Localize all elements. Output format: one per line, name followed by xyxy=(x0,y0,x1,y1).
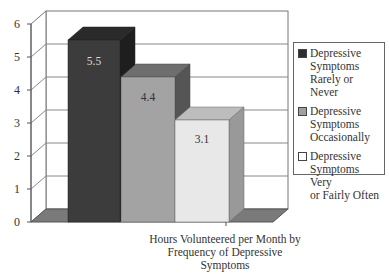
y-tick-label: 1 xyxy=(14,182,20,196)
legend-item-occasionally: Depressive Symptoms Occasionally xyxy=(298,105,381,144)
legend-swatch-light xyxy=(298,152,307,161)
bar-value-label: 4.4 xyxy=(141,91,156,103)
bar-value-label: 5.5 xyxy=(87,55,102,67)
legend-item-very-or-fairly-often: Depressive Symptoms Very or Fairly Often xyxy=(298,150,381,202)
y-tick-label: 6 xyxy=(14,17,20,31)
legend-label: Depressive Symptoms Occasionally xyxy=(310,105,370,144)
y-axis-labels: 0 1 2 3 4 5 6 xyxy=(14,17,20,229)
bar-value-label: 3.1 xyxy=(195,133,210,145)
y-tick-label: 3 xyxy=(14,116,20,130)
bar-very-or-fairly-often: 3.1 xyxy=(175,107,244,222)
chart-legend: Depressive Symptoms Rarely or Never Depr… xyxy=(293,42,385,175)
y-tick-label: 4 xyxy=(14,83,20,97)
x-axis-label: Hours Volunteered per Month by Frequency… xyxy=(120,233,330,272)
y-tick-label: 2 xyxy=(14,149,20,163)
legend-swatch-medium xyxy=(298,107,307,116)
legend-item-rarely-or-never: Depressive Symptoms Rarely or Never xyxy=(298,47,381,99)
y-tick-label: 5 xyxy=(14,50,20,64)
y-tick-label: 0 xyxy=(14,215,20,229)
legend-label: Depressive Symptoms Very or Fairly Often xyxy=(310,150,381,202)
legend-label: Depressive Symptoms Rarely or Never xyxy=(310,47,381,99)
y-axis-ticks xyxy=(27,24,31,222)
legend-swatch-dark xyxy=(298,49,307,58)
